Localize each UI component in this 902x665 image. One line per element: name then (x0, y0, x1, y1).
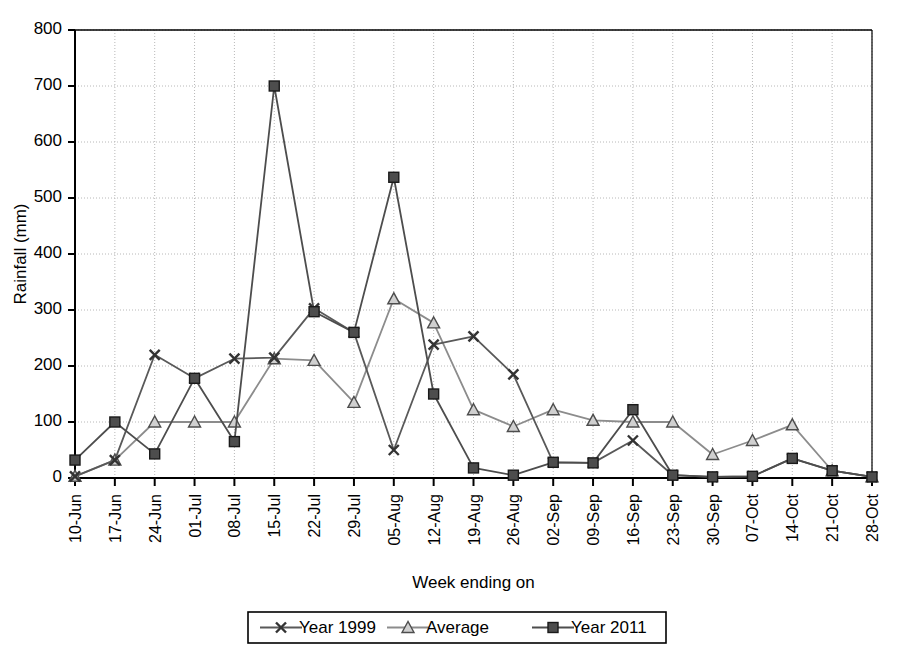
x-tick-label: 08-Jul (226, 494, 243, 538)
square-marker (628, 405, 638, 415)
y-tick-label: 0 (53, 467, 62, 486)
x-axis-ticks: 10-Jun17-Jun24-Jun01-Jul08-Jul15-Jul22-J… (67, 478, 881, 546)
square-marker (190, 373, 200, 383)
x-tick-label: 26-Aug (505, 494, 522, 546)
x-tick-label: 21-Oct (824, 493, 841, 542)
square-marker (70, 455, 80, 465)
x-tick-label: 17-Jun (107, 494, 124, 543)
x-marker (628, 435, 638, 445)
square-marker (150, 449, 160, 459)
square-marker (309, 307, 319, 317)
triangle-marker (428, 317, 440, 328)
y-tick-label: 700 (34, 75, 62, 94)
y-tick-label: 800 (34, 19, 62, 38)
square-marker (708, 472, 718, 482)
legend-label: Year 2011 (571, 618, 647, 637)
square-marker (269, 81, 279, 91)
square-marker (349, 327, 359, 337)
x-tick-label: 29-Jul (346, 494, 363, 538)
x-tick-label: 10-Jun (67, 494, 84, 543)
x-marker (508, 369, 518, 379)
x-tick-label: 07-Oct (744, 493, 761, 542)
square-marker (747, 471, 757, 481)
y-tick-label: 400 (34, 243, 62, 262)
y-axis-title: Rainfall (mm) (11, 203, 30, 304)
square-marker (588, 458, 598, 468)
x-tick-label: 28-Oct (864, 493, 881, 542)
x-tick-label: 15-Jul (266, 494, 283, 538)
legend: Year 1999AverageYear 2011 (248, 612, 666, 643)
x-tick-label: 23-Sep (665, 494, 682, 546)
square-marker (389, 172, 399, 182)
square-marker (867, 472, 877, 482)
square-marker (110, 417, 120, 427)
triangle-marker (547, 404, 559, 415)
triangle-marker (468, 404, 480, 415)
x-tick-label: 19-Aug (466, 494, 483, 546)
legend-label: Year 1999 (299, 618, 376, 637)
square-marker (508, 470, 518, 480)
square-marker (787, 453, 797, 463)
square-marker (229, 437, 239, 447)
x-tick-label: 22-Jul (306, 494, 323, 538)
y-tick-label: 100 (34, 411, 62, 430)
triangle-marker (507, 420, 519, 431)
y-tick-label: 200 (34, 355, 62, 374)
x-tick-label: 24-Jun (147, 494, 164, 543)
y-axis-ticks: 0100200300400500600700800 (34, 19, 75, 486)
x-tick-label: 16-Sep (625, 494, 642, 546)
square-marker (548, 457, 558, 467)
square-marker (469, 463, 479, 473)
x-tick-label: 05-Aug (386, 494, 403, 546)
x-axis-title: Week ending on (412, 573, 535, 592)
square-marker (827, 466, 837, 476)
triangle-marker (746, 434, 758, 445)
x-tick-label: 09-Sep (585, 494, 602, 546)
x-tick-label: 01-Jul (187, 494, 204, 538)
y-tick-label: 600 (34, 131, 62, 150)
x-tick-label: 12-Aug (426, 494, 443, 546)
x-tick-label: 30-Sep (705, 494, 722, 546)
square-marker (429, 389, 439, 399)
y-tick-label: 300 (34, 299, 62, 318)
triangle-marker (388, 293, 400, 304)
square-marker-legend (548, 623, 558, 633)
rainfall-line-chart: 010020030040050060070080010-Jun17-Jun24-… (0, 0, 902, 665)
x-tick-label: 14-Oct (784, 493, 801, 542)
y-tick-label: 500 (34, 187, 62, 206)
chart-canvas: 010020030040050060070080010-Jun17-Jun24-… (0, 0, 902, 665)
legend-label: Average (426, 618, 489, 637)
x-tick-label: 02-Sep (545, 494, 562, 546)
triangle-marker (786, 419, 798, 430)
square-marker (668, 470, 678, 480)
